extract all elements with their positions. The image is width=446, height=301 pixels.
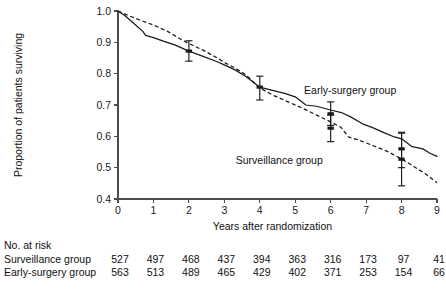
- risk-cell: 513: [147, 266, 165, 278]
- x-tick-label: 7: [363, 204, 369, 216]
- risk-cell: 402: [288, 266, 306, 278]
- x-tick-label: 6: [328, 204, 334, 216]
- risk-cell: 468: [182, 253, 200, 265]
- risk-cell: 66: [433, 266, 445, 278]
- y-tick-label: 1.0: [96, 5, 111, 17]
- x-tick-label: 1: [151, 204, 157, 216]
- x-tick-label: 8: [399, 204, 405, 216]
- x-tick-label: 5: [292, 204, 298, 216]
- x-tick-label: 3: [221, 204, 227, 216]
- series-label-surveillance-group: Surveillance group: [236, 154, 323, 166]
- y-tick-label: 0.4: [96, 193, 111, 205]
- risk-cell: 173: [359, 253, 377, 265]
- y-tick-label: 0.5: [96, 161, 111, 173]
- risk-cell: 394: [253, 253, 271, 265]
- y-tick-label: 0.7: [96, 99, 111, 111]
- survival-chart-figure: 0.40.50.60.70.80.91.00123456789Years aft…: [0, 0, 446, 301]
- risk-cell: 154: [395, 266, 413, 278]
- x-tick-label: 4: [257, 204, 263, 216]
- risk-cell: 97: [398, 253, 410, 265]
- risk-cell: 429: [253, 266, 271, 278]
- risk-table-header: No. at risk: [4, 239, 52, 251]
- x-tick-label: 9: [434, 204, 440, 216]
- y-tick-label: 0.6: [96, 130, 111, 142]
- series-label-early-surgery-group: Early-surgery group: [304, 84, 396, 96]
- risk-cell: 489: [182, 266, 200, 278]
- y-tick-label: 0.8: [96, 67, 111, 79]
- risk-cell: 41: [433, 253, 445, 265]
- risk-cell: 563: [111, 266, 129, 278]
- risk-cell: 363: [288, 253, 306, 265]
- risk-cell: 465: [218, 266, 236, 278]
- risk-row-label: Early-surgery group: [4, 266, 96, 278]
- risk-cell: 497: [147, 253, 165, 265]
- risk-cell: 253: [359, 266, 377, 278]
- risk-cell: 316: [324, 253, 342, 265]
- x-tick-label: 2: [186, 204, 192, 216]
- risk-cell: 527: [111, 253, 129, 265]
- risk-cell: 371: [324, 266, 342, 278]
- y-tick-label: 0.9: [96, 36, 111, 48]
- risk-cell: 437: [218, 253, 236, 265]
- risk-row-label: Surveillance group: [4, 253, 91, 265]
- x-tick-label: 0: [115, 204, 121, 216]
- y-axis-title: Proportion of patients surviving: [12, 33, 24, 177]
- x-axis-title: Years after randomization: [213, 220, 332, 232]
